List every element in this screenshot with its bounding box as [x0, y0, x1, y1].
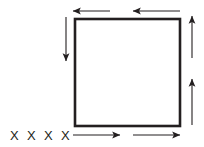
magnetic-field-into-page: X X X X: [10, 128, 70, 143]
field-x-marker-1: X: [10, 128, 19, 143]
field-x-marker-2: X: [27, 128, 36, 143]
square-loop-outline: [75, 19, 180, 126]
physics-diagram-canvas: X X X X: [0, 0, 204, 147]
field-x-marker-3: X: [44, 128, 53, 143]
field-x-marker-4: X: [61, 128, 70, 143]
diagram-svg: X X X X: [0, 0, 204, 147]
current-arrows: [66, 11, 192, 135]
